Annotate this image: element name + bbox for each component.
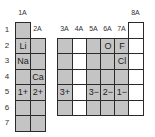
cell-1a-period-6 [15,100,31,117]
cell-8a-period-2 [128,38,144,55]
cell-text: 3− [89,87,99,97]
cell-2a-period-2 [30,38,46,55]
cell-1a-period-2: Li [15,38,31,55]
cell-text: 1− [117,87,127,97]
cell-2a-period-6 [30,100,46,117]
cell-text: Ca [32,72,44,82]
cell-1a-period-1 [15,22,31,39]
group-label-7a: 7A [114,25,129,32]
cell-1a-period-5: 1+ [15,84,31,101]
cell-text: 1+ [18,87,28,97]
cell-2a-period-5: 2+ [30,84,46,101]
cell-text: F [119,41,125,51]
cell-text: Na [17,56,29,66]
cell-text: Li [19,41,26,51]
cell-text: 3+ [60,87,70,97]
cell-1a-period-7 [15,115,31,132]
cell-text: 2− [103,87,113,97]
period-label-3: 3 [3,56,11,65]
cell-text: O [104,41,111,51]
cell-1a-period-3: Na [15,53,31,70]
cell-text: 2+ [33,87,43,97]
period-label-4: 4 [3,72,11,81]
cell-8a-period-5 [128,84,144,101]
cell-2a-period-4: Ca [30,69,46,86]
group-label-4a: 4A [72,25,87,32]
group-label-5a: 5A [86,25,101,32]
group-label-6a: 6A [100,25,115,32]
period-label-5: 5 [3,87,11,96]
cell-8a-period-6 [128,100,144,117]
group-label-2a: 2A [30,25,45,32]
period-label-2: 2 [3,41,11,50]
cell-text: Cl [118,56,127,66]
group-label-3a: 3A [57,25,72,32]
cell-2a-period-7 [30,115,46,132]
cell-8a-period-1 [128,22,144,39]
cell-2a-period-3 [30,53,46,70]
period-label-7: 7 [3,118,11,127]
period-label-1: 1 [3,25,11,34]
group-label-8a: 8A [128,9,143,16]
group-label-1a: 1A [15,9,30,16]
cell-1a-period-4 [15,69,31,86]
period-label-6: 6 [3,103,11,112]
cell-8a-period-3 [128,53,144,70]
cell-8a-period-4 [128,69,144,86]
